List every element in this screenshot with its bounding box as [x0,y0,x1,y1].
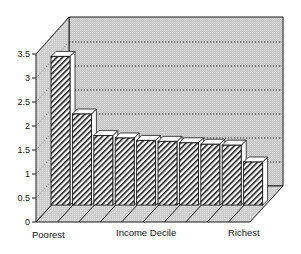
x-axis-title: Income Decile [116,227,176,238]
bar-decile-3 [94,131,118,205]
y-tick-label: 2 [25,121,30,131]
x-label-richest: Richest [228,227,260,238]
bar-decile-9 [222,140,246,205]
bar-front-face [115,138,134,205]
bar-decile-8 [201,139,225,205]
bar-front-face [137,140,156,205]
bar-front-face [201,144,220,205]
bar-front-face [179,143,198,205]
bar-decile-7 [179,138,203,205]
y-axis: 00.511.522.533.5 [17,49,36,227]
bar-decile-5 [137,135,161,205]
y-tick-label: 3 [25,73,30,83]
bar-front-face [222,145,241,205]
bar-decile-10 [244,157,268,205]
bar-decile-1 [51,51,75,205]
y-tick-label: 2.5 [17,97,30,107]
bar-front-face [158,141,177,205]
y-tick-label: 1.5 [17,145,30,155]
y-tick-label: 0 [25,217,30,227]
y-tick-label: 0.5 [17,193,30,203]
bar-front-face [94,136,113,205]
bar-front-face [244,162,263,205]
bar-decile-4 [115,133,139,205]
bar-front-face [72,114,91,205]
bar-decile-2 [72,109,96,205]
bar-front-face [51,56,70,205]
y-tick-label: 1 [25,169,30,179]
y-tick-label: 3.5 [17,49,30,59]
income-decile-3d-bar-chart: 00.511.522.533.5 Poorest Income Decile R… [0,0,301,254]
bar-side-face [263,157,268,205]
bar-decile-6 [158,136,182,205]
x-label-poorest: Poorest [32,229,65,240]
x-axis: Poorest Income Decile Richest [32,227,260,240]
